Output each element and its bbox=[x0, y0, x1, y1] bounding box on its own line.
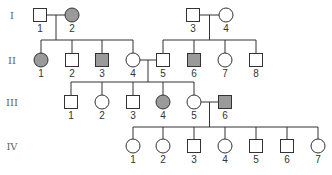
affected-female-circle bbox=[65, 8, 79, 22]
individual-number: 2 bbox=[99, 110, 105, 121]
affected-male-square bbox=[219, 96, 232, 109]
individual-number: 3 bbox=[191, 154, 197, 165]
generation-label: IV bbox=[6, 141, 18, 152]
individual-number: 1 bbox=[38, 68, 44, 79]
unaffected-female-circle bbox=[95, 95, 109, 109]
unaffected-male-square bbox=[157, 54, 170, 67]
individual-number: 7 bbox=[315, 154, 321, 165]
unaffected-female-circle bbox=[218, 53, 232, 67]
individual-number: 1 bbox=[130, 154, 136, 165]
unaffected-female-circle bbox=[219, 8, 233, 22]
individual-number: 6 bbox=[284, 154, 290, 165]
unaffected-male-square bbox=[65, 96, 78, 109]
individuals: 1234123456781234561234567 bbox=[34, 8, 326, 165]
unaffected-female-circle bbox=[126, 139, 140, 153]
generation-label: III bbox=[6, 97, 18, 108]
individual-number: 1 bbox=[37, 23, 43, 34]
affected-female-circle bbox=[156, 95, 170, 109]
unaffected-female-circle bbox=[218, 139, 232, 153]
unaffected-female-circle bbox=[311, 139, 325, 153]
unaffected-male-square bbox=[250, 54, 263, 67]
individual-number: 5 bbox=[160, 68, 166, 79]
affected-female-circle bbox=[34, 53, 48, 67]
unaffected-female-circle bbox=[187, 95, 201, 109]
individual-number: 2 bbox=[69, 68, 75, 79]
individual-number: 4 bbox=[160, 110, 166, 121]
unaffected-male-square bbox=[250, 140, 263, 153]
individual-number: 7 bbox=[222, 68, 228, 79]
individual-number: 5 bbox=[253, 154, 259, 165]
affected-male-square bbox=[96, 54, 109, 67]
individual-number: 2 bbox=[69, 23, 75, 34]
affected-male-square bbox=[188, 54, 201, 67]
unaffected-male-square bbox=[34, 9, 47, 22]
individual-number: 3 bbox=[190, 23, 196, 34]
generation-labels: IIIIIIIV bbox=[6, 10, 18, 152]
individual-number: 8 bbox=[253, 68, 259, 79]
individual-number: 4 bbox=[222, 154, 228, 165]
unaffected-male-square bbox=[66, 54, 79, 67]
unaffected-male-square bbox=[127, 96, 140, 109]
individual-number: 3 bbox=[99, 68, 105, 79]
individual-number: 5 bbox=[191, 110, 197, 121]
individual-number: 6 bbox=[191, 68, 197, 79]
unaffected-male-square bbox=[188, 140, 201, 153]
pedigree-chart: IIIIIIIV 1234123456781234561234567 bbox=[0, 0, 332, 175]
unaffected-female-circle bbox=[156, 139, 170, 153]
unaffected-female-circle bbox=[126, 53, 140, 67]
unaffected-male-square bbox=[187, 9, 200, 22]
generation-label: II bbox=[8, 55, 16, 66]
individual-number: 1 bbox=[68, 110, 74, 121]
connector-lines bbox=[41, 15, 318, 140]
individual-number: 3 bbox=[130, 110, 136, 121]
generation-label: I bbox=[10, 10, 14, 21]
unaffected-male-square bbox=[281, 140, 294, 153]
individual-number: 4 bbox=[223, 23, 229, 34]
individual-number: 2 bbox=[160, 154, 166, 165]
individual-number: 4 bbox=[130, 68, 136, 79]
individual-number: 6 bbox=[222, 110, 228, 121]
